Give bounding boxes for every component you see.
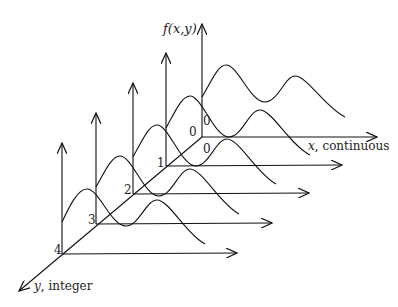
y-axis-suffix: , integer xyxy=(41,279,93,293)
slice-3-index-label: 3 xyxy=(88,213,96,227)
y-axis-label: y, integer xyxy=(33,279,93,293)
x-axis-label: x, continuous xyxy=(308,139,389,153)
slice-1-index-label: 1 xyxy=(157,156,165,170)
slice-0-f-zero-label: 0 xyxy=(203,114,211,128)
slice-4-x-axis xyxy=(62,253,237,254)
slice-2-x-axis xyxy=(133,193,309,194)
slice-4-index-label: 4 xyxy=(54,243,62,257)
slice-0-curve xyxy=(202,65,345,117)
diagram-canvas: f(x,y) x, continuous y, integer 0 0 0 1 … xyxy=(0,0,398,307)
slice-0 xyxy=(202,24,377,137)
slice-0-x-zero-label: 0 xyxy=(203,142,211,156)
slice-3 xyxy=(96,113,272,224)
slice-4 xyxy=(62,143,237,254)
x-axis-suffix: , continuous xyxy=(315,139,390,153)
slice-2 xyxy=(133,83,309,194)
slice-0-index-label: 0 xyxy=(189,125,197,139)
slice-4-curve xyxy=(62,189,205,244)
f-axis-label: f(x,y) xyxy=(162,21,197,36)
slice-2-index-label: 2 xyxy=(124,183,132,197)
slice-3-x-axis xyxy=(96,223,272,224)
